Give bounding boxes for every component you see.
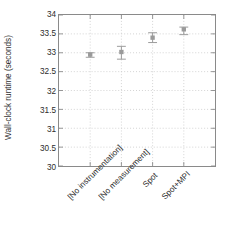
data-point-group <box>179 27 188 35</box>
x-axis-tick-label: Spot+MPI <box>160 171 190 201</box>
data-point-marker <box>88 52 92 56</box>
data-point-marker <box>150 35 154 39</box>
y-axis-tick-label: 30.5 <box>4 143 56 152</box>
plot-area <box>58 14 216 167</box>
y-axis-tick-label: 30 <box>4 163 56 172</box>
data-point-group <box>148 33 157 43</box>
chart-figure: Wall-clock runtime (seconds) 3030.53131.… <box>0 0 238 232</box>
x-axis-tick-label: [No measurement] <box>97 171 127 201</box>
y-axis-tick-label: 32.5 <box>4 67 56 76</box>
y-axis-tick-label: 31.5 <box>4 105 56 114</box>
y-axis-tick-label: 34 <box>4 10 56 19</box>
data-point-group <box>86 52 95 57</box>
y-axis-tick-label: 33 <box>4 48 56 57</box>
x-axis-tick-label-text: Spot+MPI <box>160 169 192 201</box>
y-axis-ticks: 3030.53131.53232.53333.534 <box>0 14 56 167</box>
data-layer <box>59 15 215 166</box>
x-axis-ticks: [No instrumentation][No measurement]Spot… <box>58 167 216 232</box>
y-axis-tick-label: 31 <box>4 124 56 133</box>
data-point-marker <box>182 27 186 31</box>
data-point-marker <box>119 50 123 54</box>
x-axis-tick-label: Spot <box>129 171 159 201</box>
data-point-group <box>117 46 126 59</box>
y-axis-tick-label: 33.5 <box>4 29 56 38</box>
y-axis-tick-label: 32 <box>4 86 56 95</box>
x-axis-tick-label-text: Spot <box>141 171 159 189</box>
x-axis-tick-label: [No instrumentation] <box>66 171 96 201</box>
